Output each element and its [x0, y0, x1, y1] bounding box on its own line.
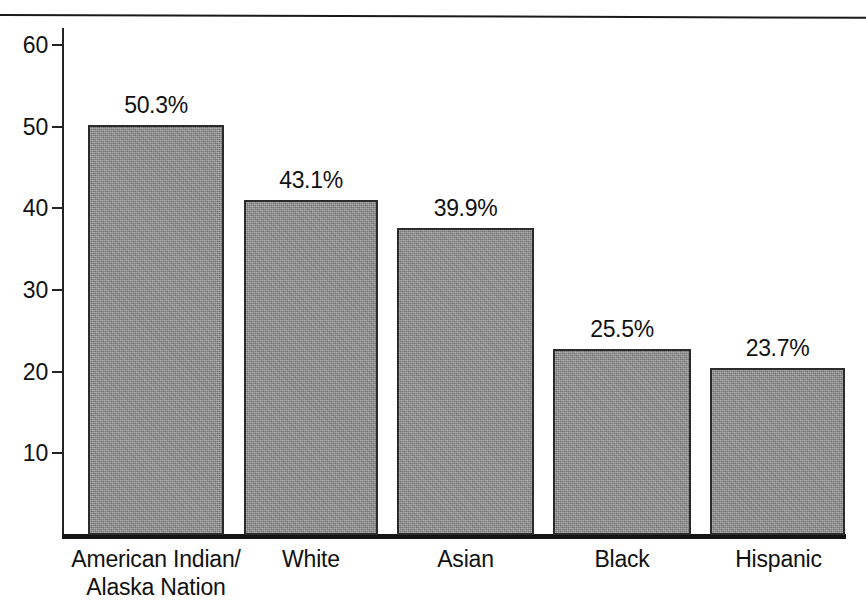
category-label-american-indian-alaska-nation: American Indian/ Alaska Nation — [46, 545, 266, 601]
bar-white[interactable] — [244, 200, 378, 535]
y-tick-label: 10 — [0, 439, 48, 467]
bar-hispanic[interactable] — [710, 368, 845, 535]
y-tick-label: 60 — [0, 31, 48, 59]
bar-american-indian-alaska-nation[interactable] — [88, 125, 224, 535]
y-tick-label: 20 — [0, 358, 48, 386]
y-tick-mark — [52, 207, 64, 209]
bar-value-black: 25.5% — [553, 316, 691, 343]
bar-chart-plot-area: 60 50 40 30 20 10 50.3% 43.1 — [0, 0, 866, 609]
category-label-black: Black — [553, 545, 691, 573]
bar-black[interactable] — [553, 349, 691, 535]
y-tick-label: 30 — [0, 276, 48, 304]
y-tick-mark — [52, 289, 64, 291]
bar-value-hispanic: 23.7% — [710, 335, 845, 362]
bar-value-white: 43.1% — [244, 167, 378, 194]
y-tick-label: 50 — [0, 113, 48, 141]
category-label-asian: Asian — [397, 545, 534, 573]
y-axis-line — [62, 28, 64, 538]
y-tick-mark — [52, 371, 64, 373]
y-tick-mark — [52, 126, 64, 128]
bar-value-american-indian-alaska-nation: 50.3% — [88, 92, 224, 119]
bar-value-asian: 39.9% — [397, 195, 534, 222]
y-tick-mark — [52, 452, 64, 454]
chart-page: 60 50 40 30 20 10 50.3% 43.1 — [0, 0, 866, 609]
category-label-white: White — [244, 545, 378, 573]
y-tick-mark — [52, 44, 64, 46]
category-label-hispanic: Hispanic — [706, 545, 851, 573]
bar-asian[interactable] — [397, 228, 534, 535]
y-tick-label: 40 — [0, 194, 48, 222]
